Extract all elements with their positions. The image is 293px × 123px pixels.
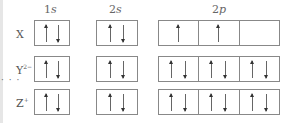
- orbital-1s-z: [34, 89, 70, 115]
- orbital-1s-x: [34, 20, 70, 46]
- orbital-2s-y: [96, 56, 138, 82]
- orbital-2p-z: [158, 89, 280, 115]
- spin-up-arrow-icon: [211, 61, 212, 78]
- left-border: [0, 0, 3, 123]
- spin-down-arrow-icon: [266, 94, 267, 111]
- species-label-y: Y2−: [16, 63, 32, 77]
- spin-down-arrow-icon: [266, 61, 267, 78]
- species-label-z: Z+: [16, 96, 29, 110]
- spin-down-arrow-icon: [58, 94, 59, 111]
- spin-down-arrow-icon: [225, 94, 226, 111]
- spin-down-arrow-icon: [225, 61, 226, 78]
- header-1s: 1s: [44, 3, 57, 16]
- spin-up-arrow-icon: [46, 25, 47, 42]
- spin-down-arrow-icon: [185, 94, 186, 111]
- spin-down-arrow-icon: [58, 25, 59, 42]
- spin-up-arrow-icon: [110, 94, 111, 111]
- spin-down-arrow-icon: [58, 61, 59, 78]
- spin-up-arrow-icon: [171, 94, 172, 111]
- spin-up-arrow-icon: [46, 94, 47, 111]
- spin-down-arrow-icon: [185, 61, 186, 78]
- spin-up-arrow-icon: [171, 61, 172, 78]
- species-label-x: X: [16, 27, 24, 41]
- spin-up-arrow-icon: [110, 61, 111, 78]
- orbital-2p-y: [158, 56, 280, 82]
- spin-up-arrow-icon: [110, 25, 111, 42]
- header-2p: 2p: [212, 3, 226, 16]
- spin-up-arrow-icon: [178, 25, 179, 42]
- spin-down-arrow-icon: [123, 25, 124, 42]
- spin-up-arrow-icon: [46, 61, 47, 78]
- spin-up-arrow-icon: [211, 94, 212, 111]
- spin-down-arrow-icon: [123, 94, 124, 111]
- spin-up-arrow-icon: [252, 94, 253, 111]
- spin-up-arrow-icon: [218, 25, 219, 42]
- orbital-1s-y: [34, 56, 70, 82]
- orbital-2s-x: [96, 20, 138, 46]
- orbital-2p-x: [158, 20, 280, 46]
- orbital-2s-z: [96, 89, 138, 115]
- spin-up-arrow-icon: [252, 61, 253, 78]
- spin-down-arrow-icon: [123, 61, 124, 78]
- header-2s: 2s: [109, 3, 122, 16]
